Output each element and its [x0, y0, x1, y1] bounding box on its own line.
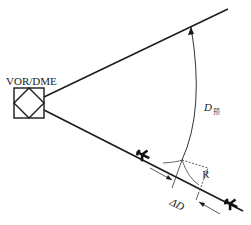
delta-d-arrowhead-right-icon — [199, 202, 205, 207]
delta-d-arrowhead-left-icon — [166, 175, 172, 180]
distance-symbol: D — [204, 101, 212, 113]
turn-curve-left — [163, 160, 182, 163]
station-label: VOR/DME — [6, 75, 57, 87]
vor-dme-station-icon — [14, 88, 44, 118]
delta-d-extension-left — [172, 160, 182, 188]
upper-radial-line — [44, 9, 228, 97]
radius-label: R — [201, 168, 210, 181]
distance-subscript: 预 — [213, 108, 220, 116]
delta-d-extension-right — [196, 192, 199, 200]
vor-dme-arc-diagram: VOR/DME D预 R ΔD — [0, 0, 251, 225]
dme-arc — [182, 27, 196, 160]
aircraft-icon — [222, 195, 240, 212]
lower-track-line — [44, 110, 243, 211]
aircraft-icon — [134, 146, 152, 163]
anticipated-distance-label: D预 — [204, 101, 220, 113]
